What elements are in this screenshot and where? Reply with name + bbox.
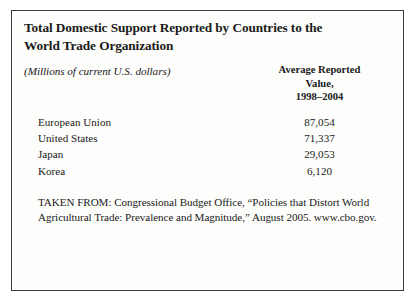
bar-row: Korea 6,120 bbox=[24, 164, 393, 180]
bar-row: European Union 87,054 bbox=[24, 115, 393, 131]
value-column-header-line2: Value, bbox=[252, 77, 387, 91]
figure-container: Total Domestic Support Reported by Count… bbox=[11, 10, 404, 291]
category-label: European Union bbox=[38, 115, 111, 130]
value-label: 6,120 bbox=[252, 164, 387, 179]
source-note: TAKEN FROM: Congressional Budget Office,… bbox=[38, 195, 387, 224]
bar-chart: European Union 87,054 United States 71,3… bbox=[24, 115, 393, 180]
category-label: United States bbox=[38, 131, 97, 146]
bar-row: United States 71,337 bbox=[24, 131, 393, 147]
category-label: Japan bbox=[38, 147, 63, 162]
figure-inner: Total Domestic Support Reported by Count… bbox=[24, 19, 393, 284]
category-label: Korea bbox=[38, 164, 65, 179]
bar-track bbox=[131, 118, 271, 128]
value-column-header-line3: 1998–2004 bbox=[252, 90, 387, 104]
value-label: 87,054 bbox=[252, 115, 387, 130]
value-label: 29,053 bbox=[252, 147, 387, 162]
bar-track bbox=[131, 150, 271, 160]
value-label: 71,337 bbox=[252, 131, 387, 146]
value-column-header: Average Reported Value, 1998–2004 bbox=[252, 63, 387, 104]
page-title: Total Domestic Support Reported by Count… bbox=[24, 19, 354, 54]
bar-row: Japan 29,053 bbox=[24, 147, 393, 163]
value-column-header-line1: Average Reported bbox=[252, 63, 387, 77]
bar-track bbox=[131, 166, 271, 176]
bar-track bbox=[131, 134, 271, 144]
